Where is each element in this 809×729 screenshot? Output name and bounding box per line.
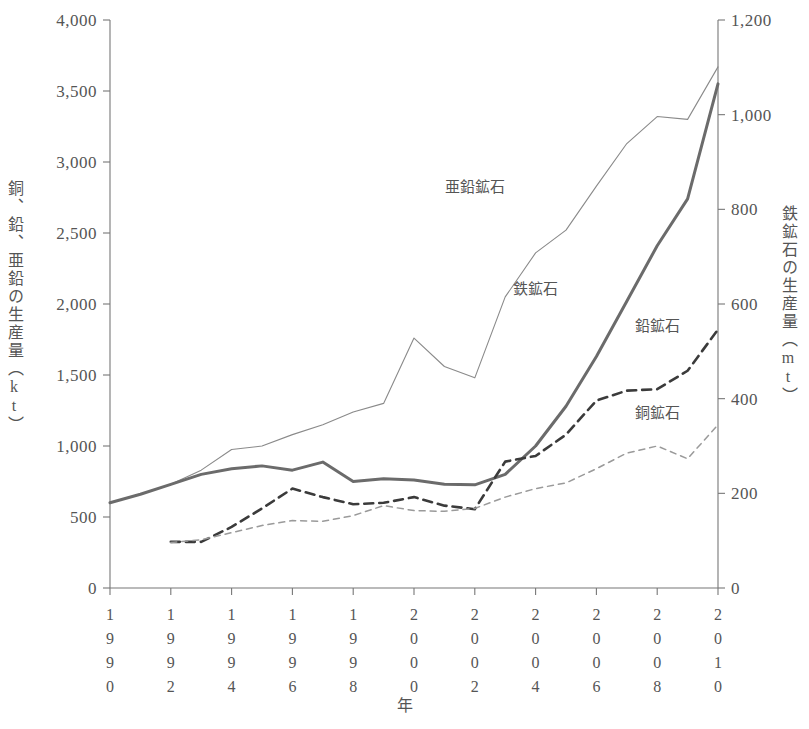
svg-text:0: 0 <box>592 630 600 647</box>
svg-text:9: 9 <box>167 630 175 647</box>
x-tick-label: 2004 <box>532 606 540 695</box>
svg-text:1: 1 <box>288 606 296 623</box>
series-line <box>110 67 718 503</box>
chart-container: 銅、鉛、亜鉛の生産量（kt） 鉄鉱石の生産量（mt） 05001,0001,50… <box>0 0 809 729</box>
x-tick-label: 1996 <box>288 606 296 695</box>
right-axis: 02004006008001,0001,200 <box>718 11 772 598</box>
svg-text:4: 4 <box>532 678 540 695</box>
x-axis <box>110 588 718 595</box>
series-label: 銅鉱石 <box>635 404 680 421</box>
svg-text:2: 2 <box>471 678 479 695</box>
svg-text:9: 9 <box>288 630 296 647</box>
x-tick-label: 2002 <box>471 606 479 695</box>
svg-text:0: 0 <box>471 630 479 647</box>
x-tick-label: 1994 <box>228 606 236 695</box>
right-tick-label: 1,000 <box>731 106 772 125</box>
right-tick-label: 1,200 <box>731 11 772 30</box>
svg-text:2: 2 <box>714 606 722 623</box>
svg-text:0: 0 <box>410 678 418 695</box>
series-label: 亜鉛鉱石 <box>445 178 505 195</box>
svg-text:2: 2 <box>592 606 600 623</box>
svg-text:1: 1 <box>167 606 175 623</box>
svg-text:4: 4 <box>228 678 236 695</box>
x-tick-label: 1990 <box>106 606 114 695</box>
left-tick-label: 500 <box>70 508 97 527</box>
right-tick-label: 800 <box>731 200 758 219</box>
x-tick-labels: 1990199219941996199820002002200420062008… <box>106 606 722 695</box>
svg-text:2: 2 <box>471 606 479 623</box>
svg-text:9: 9 <box>288 654 296 671</box>
svg-text:9: 9 <box>106 630 114 647</box>
svg-text:0: 0 <box>410 630 418 647</box>
svg-text:0: 0 <box>714 630 722 647</box>
svg-text:1: 1 <box>349 606 357 623</box>
svg-text:1: 1 <box>106 606 114 623</box>
svg-text:0: 0 <box>532 630 540 647</box>
left-tick-label: 1,000 <box>56 437 97 456</box>
svg-text:9: 9 <box>106 654 114 671</box>
svg-text:0: 0 <box>471 654 479 671</box>
series-line <box>110 84 718 503</box>
left-tick-label: 0 <box>88 579 97 598</box>
line-chart-plot: 05001,0001,5002,0002,5003,0003,5004,000 … <box>0 0 809 729</box>
svg-text:8: 8 <box>653 678 661 695</box>
x-tick-label: 2000 <box>410 606 418 695</box>
svg-text:8: 8 <box>349 678 357 695</box>
left-tick-label: 4,000 <box>56 11 97 30</box>
series-lines <box>110 67 718 543</box>
svg-text:2: 2 <box>410 606 418 623</box>
svg-text:0: 0 <box>653 630 661 647</box>
svg-text:6: 6 <box>288 678 296 695</box>
svg-text:9: 9 <box>349 654 357 671</box>
right-tick-label: 200 <box>731 484 758 503</box>
left-axis: 05001,0001,5002,0002,5003,0003,5004,000 <box>56 11 110 598</box>
x-tick-label: 1992 <box>167 606 175 695</box>
svg-text:0: 0 <box>653 654 661 671</box>
series-label: 鉛鉱石 <box>635 317 680 334</box>
svg-text:2: 2 <box>532 606 540 623</box>
svg-text:1: 1 <box>714 654 722 671</box>
svg-text:0: 0 <box>592 654 600 671</box>
x-tick-label: 1998 <box>349 606 357 695</box>
series-annotations: 亜鉛鉱石鉄鉱石鉛鉱石銅鉱石 <box>445 178 680 421</box>
svg-text:0: 0 <box>106 678 114 695</box>
svg-text:0: 0 <box>714 678 722 695</box>
x-tick-label: 2008 <box>653 606 661 695</box>
left-tick-label: 1,500 <box>56 366 97 385</box>
right-tick-label: 400 <box>731 390 758 409</box>
svg-text:9: 9 <box>167 654 175 671</box>
right-tick-label: 600 <box>731 295 758 314</box>
svg-text:0: 0 <box>532 654 540 671</box>
left-tick-label: 3,500 <box>56 82 97 101</box>
svg-text:9: 9 <box>228 654 236 671</box>
left-tick-label: 3,000 <box>56 153 97 172</box>
svg-text:9: 9 <box>349 630 357 647</box>
x-tick-label: 2006 <box>592 606 600 695</box>
left-tick-label: 2,000 <box>56 295 97 314</box>
right-tick-label: 0 <box>731 579 740 598</box>
svg-text:2: 2 <box>167 678 175 695</box>
svg-text:6: 6 <box>592 678 600 695</box>
series-label: 鉄鉱石 <box>513 280 558 297</box>
left-tick-label: 2,500 <box>56 224 97 243</box>
svg-text:1: 1 <box>228 606 236 623</box>
series-line <box>171 330 718 542</box>
svg-text:2: 2 <box>653 606 661 623</box>
svg-text:9: 9 <box>228 630 236 647</box>
x-axis-title: 年 <box>397 697 413 714</box>
x-tick-label: 2010 <box>714 606 722 695</box>
svg-text:0: 0 <box>410 654 418 671</box>
